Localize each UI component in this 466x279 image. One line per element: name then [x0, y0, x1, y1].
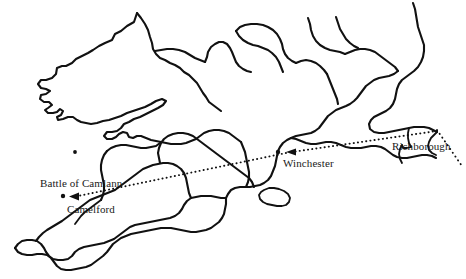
map-label-camelford: Camelford: [67, 203, 115, 215]
arrow-head-camelford: [69, 193, 79, 201]
coastline-east-anglia: [291, 3, 437, 138]
city-dot-camelford: [61, 194, 65, 198]
coastline-midlands-north: [236, 17, 398, 74]
map-label-battle-of-camlann: Battle of Camlann: [40, 177, 122, 189]
city-dot-winchester: [276, 150, 280, 154]
city-dot-unnamed: [73, 150, 77, 154]
map-label-richborough: Richborough: [392, 140, 451, 152]
isle-of-wight: [259, 188, 290, 206]
coastline-severn: [137, 13, 251, 111]
coastline-wales: [38, 13, 241, 144]
map-canvas: Battle of Camlann Camelford Winchester R…: [0, 0, 466, 279]
map-label-winchester: Winchester: [283, 157, 334, 169]
arrow-head-winchester: [286, 149, 296, 156]
coastline-south-england: [15, 138, 291, 270]
